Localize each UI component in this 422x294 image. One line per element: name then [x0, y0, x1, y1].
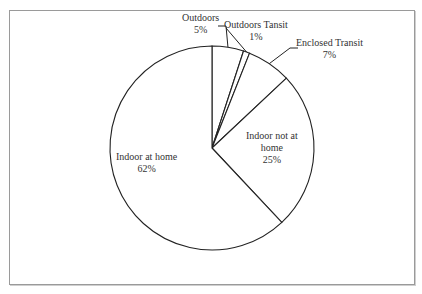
- label-outdoors-transit-pct: 1%: [224, 31, 288, 43]
- label-indoor-home-name: Indoor at home: [116, 151, 177, 163]
- label-outdoors-transit-name: Outdoors Tansit: [224, 19, 288, 31]
- label-enclosed-transit-name: Enclosed Transit: [296, 37, 363, 49]
- label-indoor-not-home-line1: Indoor not at: [246, 130, 298, 142]
- label-outdoors: Outdoors 5%: [182, 12, 219, 36]
- label-indoor-not-home-pct: 25%: [246, 154, 298, 166]
- leader-line-2: [269, 48, 298, 64]
- label-indoor-not-home-line2: home: [246, 142, 298, 154]
- label-outdoors-name: Outdoors: [182, 12, 219, 24]
- label-outdoors-pct: 5%: [182, 24, 219, 36]
- label-enclosed-transit: Enclosed Transit 7%: [296, 37, 363, 61]
- label-indoor-home-pct: 62%: [116, 163, 177, 175]
- label-outdoors-transit: Outdoors Tansit 1%: [224, 19, 288, 43]
- label-enclosed-transit-pct: 7%: [296, 49, 363, 61]
- label-indoor-not-at-home: Indoor not at home 25%: [246, 130, 298, 166]
- label-indoor-at-home: Indoor at home 62%: [116, 151, 177, 175]
